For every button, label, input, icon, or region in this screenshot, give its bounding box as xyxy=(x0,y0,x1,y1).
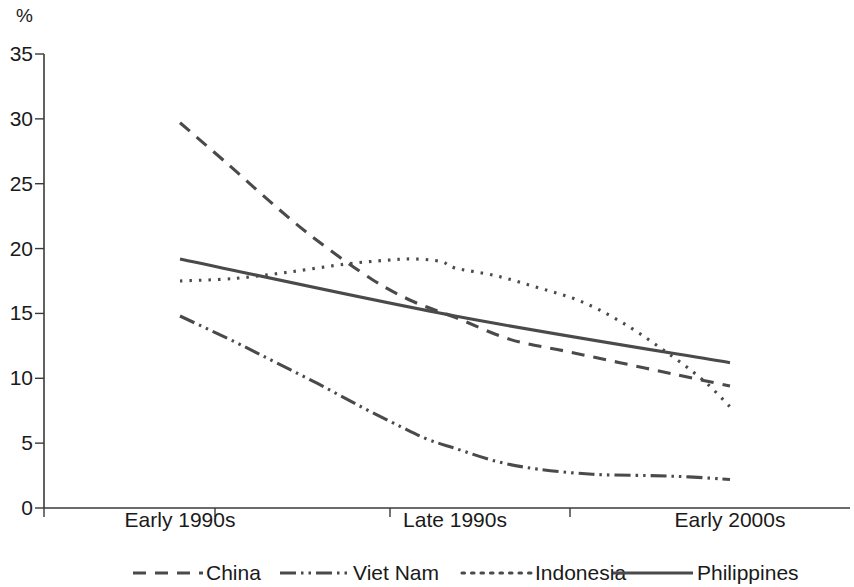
y-axis-unit-label: % xyxy=(16,5,33,26)
chart-legend: ChinaViet NamIndonesiaPhilippines xyxy=(133,561,799,584)
y-tick-label: 5 xyxy=(21,431,33,454)
series-line-indonesia xyxy=(180,259,730,407)
y-axis-tick-labels: 05101520253035 xyxy=(10,42,33,519)
legend-label-viet-nam: Viet Nam xyxy=(353,561,439,584)
x-tick-label: Early 1990s xyxy=(125,508,236,531)
y-tick-label: 20 xyxy=(10,237,33,260)
legend-label-china: China xyxy=(206,561,261,584)
legend-label-philippines: Philippines xyxy=(697,561,799,584)
y-tick-label: 10 xyxy=(10,366,33,389)
series-line-philippines xyxy=(180,259,730,363)
y-axis-ticks xyxy=(35,54,44,508)
y-tick-label: 35 xyxy=(10,42,33,65)
x-axis-group: Early 1990sLate 1990sEarly 2000s xyxy=(44,508,850,531)
y-tick-label: 25 xyxy=(10,172,33,195)
chart-container: 05101520253035 % Early 1990sLate 1990sEa… xyxy=(0,0,854,587)
y-axis-group: 05101520253035 % xyxy=(10,5,44,519)
series-lines xyxy=(180,123,730,480)
x-tick-label: Early 2000s xyxy=(675,508,786,531)
x-tick-label: Late 1990s xyxy=(403,508,507,531)
x-axis-tick-labels: Early 1990sLate 1990sEarly 2000s xyxy=(125,508,786,531)
series-line-china xyxy=(180,123,730,386)
y-tick-label: 15 xyxy=(10,301,33,324)
line-chart: 05101520253035 % Early 1990sLate 1990sEa… xyxy=(0,0,854,587)
y-tick-label: 0 xyxy=(21,496,33,519)
legend-label-indonesia: Indonesia xyxy=(535,561,626,584)
y-tick-label: 30 xyxy=(10,107,33,130)
